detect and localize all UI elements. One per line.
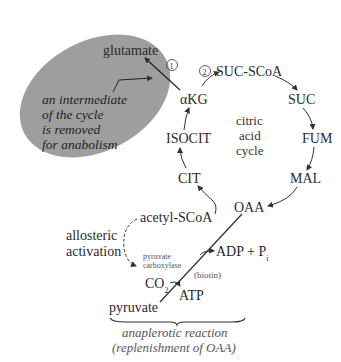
adp-label: ADP + Pi (216, 244, 269, 263)
regulation-line-1: allosteric (66, 228, 117, 243)
intermediate-suc: SUC (288, 92, 315, 107)
removal-note-line-1: an intermediate (42, 92, 127, 107)
arrow-fum-mal (307, 147, 314, 170)
intermediate-oaa: OAA (234, 200, 265, 215)
arrow-isocit-akg (184, 108, 189, 130)
enzyme-line-2: carboxylase (143, 261, 182, 270)
caption-line-2: (replenishment of OAA) (112, 340, 236, 355)
co2-label: CO2 (145, 276, 168, 295)
caption-brace (110, 318, 245, 325)
caption-line-1: anaplerotic reaction (122, 325, 228, 340)
enzyme-cofactor: (biotin) (194, 270, 221, 280)
arrow-mal-oaa (268, 187, 297, 206)
adp-out-arrow (200, 251, 214, 255)
intermediate-cit: CIT (178, 171, 201, 186)
removal-note-line-4: for anabolism (42, 137, 118, 152)
regulation-line-2: activation (66, 244, 121, 259)
atp-label: ATP (179, 288, 204, 303)
allosteric-dashed-arrow (124, 219, 137, 266)
intermediate-succoa: SUC-SCoA (216, 64, 283, 79)
cycle-center-line-1: citric (236, 113, 263, 128)
arrow-suc-fum (303, 108, 313, 129)
arrow-cit-isocit (180, 148, 186, 168)
intermediate-mal: MAL (290, 171, 321, 186)
arrow-acetyl-join (212, 200, 216, 214)
removal-note-line-2: of the cycle (42, 107, 103, 122)
intermediate-fum: FUM (302, 131, 333, 146)
acetyl-scoa-label: acetyl-SCoA (140, 210, 213, 225)
cycle-center-line-3: cycle (236, 143, 264, 158)
glutamate-label: glutamate (103, 43, 158, 58)
diagram: an intermediate of the cycle is removed … (0, 0, 341, 362)
removal-note-line-3: is removed (42, 122, 101, 137)
pyruvate-label: pyruvate (109, 300, 158, 315)
step-2-label: 2 (203, 68, 207, 77)
intermediate-akg: αKG (180, 92, 208, 107)
intermediate-isocit: ISOCIT (166, 131, 212, 146)
arrow-oaa-cit (198, 186, 213, 201)
enzyme-line-1: pyruvate (143, 252, 171, 261)
step-1-label: 1 (170, 62, 174, 71)
cycle-center-line-2: acid (239, 128, 261, 143)
